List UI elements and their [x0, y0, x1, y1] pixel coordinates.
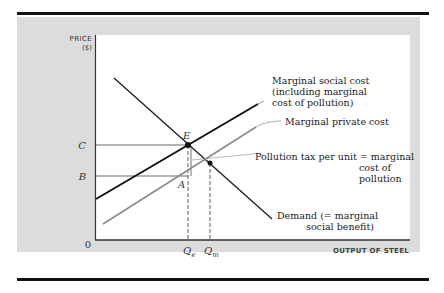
tick-qe: Qe — [183, 245, 195, 259]
msc-label-1: Marginal social cost — [272, 75, 369, 86]
demand-label-1: Demand (= marginal — [277, 210, 378, 221]
point-m — [208, 161, 213, 166]
tick-b: B — [78, 171, 86, 182]
y-axis-label: PRICE — [70, 35, 92, 43]
mpc-label: Marginal private cost — [285, 116, 389, 127]
chart: PRICE ($) C B 0 E A Qe Qm OUTPUT OF STEE… — [0, 0, 444, 293]
origin-label: 0 — [85, 239, 91, 250]
label-e: E — [182, 130, 191, 141]
tick-c: C — [78, 140, 86, 151]
y-axis-unit: ($) — [82, 44, 92, 52]
point-e — [185, 142, 191, 148]
tick-qm: Qm — [204, 245, 219, 259]
tax-label-2: cost of — [359, 162, 392, 173]
demand-label-2: social benefit) — [306, 221, 374, 232]
tax-label-1: Pollution tax per unit = marginal — [255, 151, 414, 162]
msc-label-2: (including marginal — [272, 86, 367, 97]
label-a: A — [177, 179, 185, 190]
x-axis-label: OUTPUT OF STEEL — [333, 247, 409, 255]
msc-label-3: cost of pollution) — [272, 97, 353, 108]
tax-label-3: pollution — [359, 173, 402, 184]
